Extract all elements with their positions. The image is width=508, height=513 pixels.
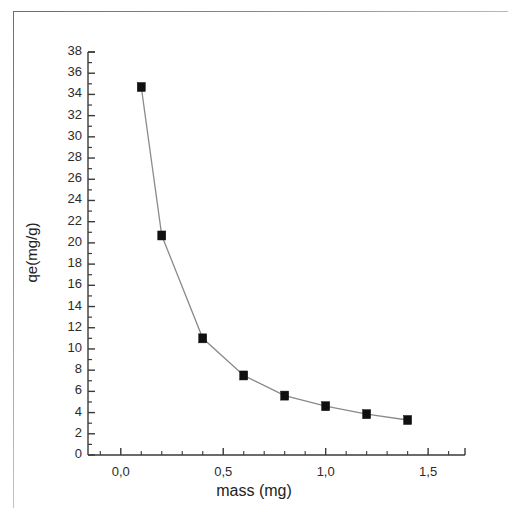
y-axis-tick-label: 4 [40,404,82,419]
data-point-marker [158,231,166,240]
x-axis-title: mass (mg) [0,482,508,500]
y-axis-tick-label: 28 [40,149,82,164]
data-point-marker [322,402,330,411]
data-series-group [137,82,411,424]
data-point-marker [404,416,412,425]
x-axis-tick-label: 1,5 [398,464,458,479]
y-axis-tick-label: 24 [40,191,82,206]
y-axis-tick-label: 0 [40,446,82,461]
y-axis-tick-label: 2 [40,425,82,440]
x-axis-tick-label: 0,0 [91,464,151,479]
y-axis-tick-label: 10 [40,340,82,355]
y-axis-tick-label: 16 [40,276,82,291]
data-point-marker [137,82,145,91]
y-axis-tick-label: 38 [40,43,82,58]
x-axis-tick-label: 0,5 [193,464,253,479]
series-line [141,87,407,420]
y-axis-tick-label: 36 [40,64,82,79]
data-point-marker [199,334,207,343]
data-point-marker [281,391,289,400]
y-axis-tick-label: 18 [40,255,82,270]
y-axis-tick-label: 8 [40,361,82,376]
y-axis-tick-label: 6 [40,382,82,397]
y-axis-tick-label: 12 [40,319,82,334]
data-point-marker [240,371,248,380]
figure-container: 02468101214161820222426283032343638 0,00… [0,0,508,513]
y-axis-tick-label: 30 [40,128,82,143]
y-axis-tick-label: 14 [40,298,82,313]
y-axis-tick-label: 22 [40,213,82,228]
y-axis-tick-label: 34 [40,85,82,100]
x-axis-tick-label: 1,0 [296,464,356,479]
y-axis-tick-label: 26 [40,170,82,185]
y-axis-tick-label: 20 [40,234,82,249]
data-point-marker [363,410,371,419]
y-axis-title: qe(mg/g) [23,198,40,308]
y-axis-tick-label: 32 [40,107,82,122]
